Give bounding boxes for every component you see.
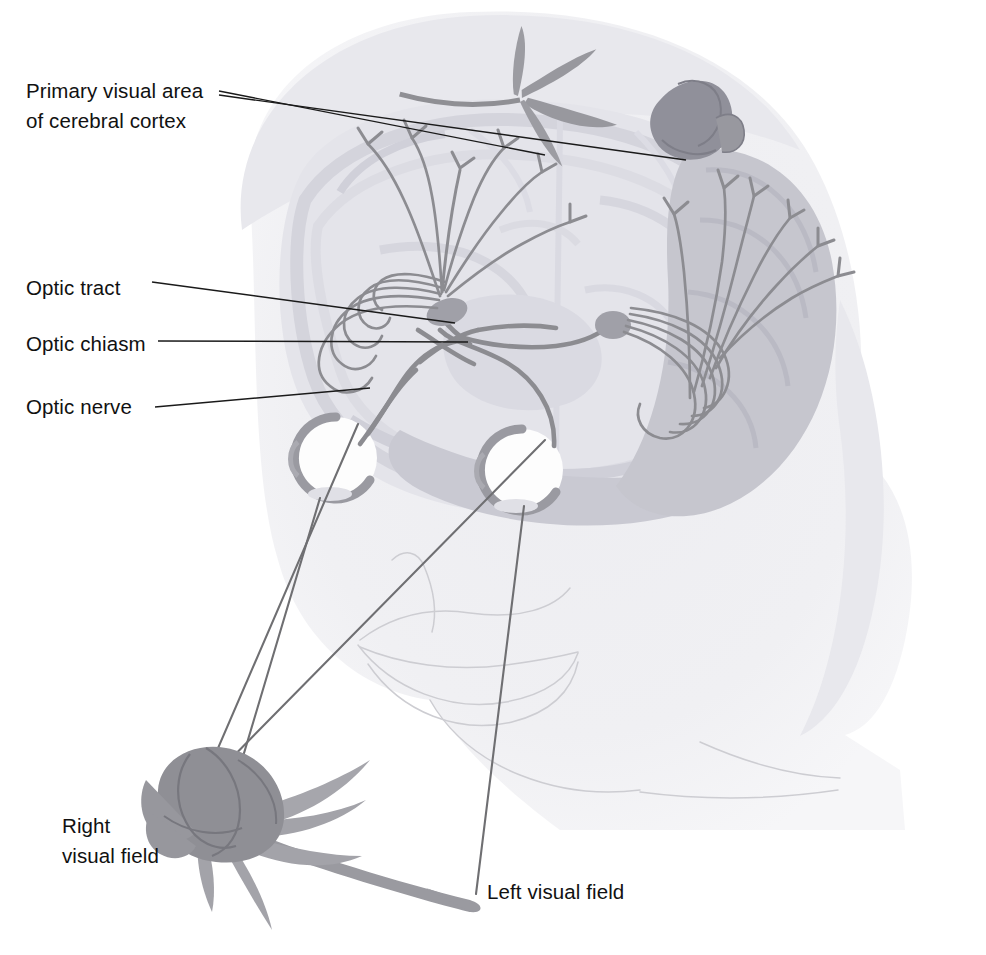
label-optic-chiasm: Optic chiasm xyxy=(26,332,146,355)
label-primary-visual-area-line1: Primary visual area xyxy=(26,79,204,102)
label-primary-visual-area-line2: of cerebral cortex xyxy=(26,109,187,132)
label-right-visual-field-line1: Right xyxy=(62,814,111,837)
label-right-visual-field-line2: visual field xyxy=(62,844,159,867)
visual-pathway-figure: Primary visual area of cerebral cortex O… xyxy=(0,0,986,955)
right-eyeball xyxy=(477,429,564,513)
left-eyeball xyxy=(291,417,378,501)
label-optic-tract: Optic tract xyxy=(26,276,121,299)
label-left-visual-field: Left visual field xyxy=(487,880,624,903)
label-optic-nerve: Optic nerve xyxy=(26,395,132,418)
rose-object xyxy=(141,747,480,930)
leader-optic-chiasm xyxy=(158,341,468,342)
